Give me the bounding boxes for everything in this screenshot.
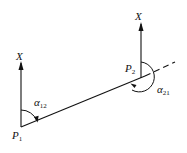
angle-label-alpha12: α12 bbox=[34, 97, 47, 110]
diagram-graphics bbox=[0, 0, 187, 153]
dashed-extension bbox=[145, 62, 175, 76]
point-label-p2: P2 bbox=[125, 63, 135, 76]
x-axis-p1 bbox=[19, 61, 24, 127]
azimuth-diagram: X X P1 P2 α12 α21 bbox=[0, 0, 187, 153]
x-axis-p2 bbox=[139, 22, 144, 78]
angle-label-alpha21: α21 bbox=[157, 84, 170, 97]
point-label-p1: P1 bbox=[12, 130, 22, 143]
x-label-p2: X bbox=[135, 11, 142, 22]
x-label-p1: X bbox=[16, 51, 23, 62]
